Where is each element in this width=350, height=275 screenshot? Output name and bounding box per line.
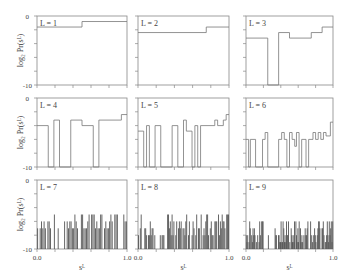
x-tick-0: 0.0 bbox=[33, 254, 42, 262]
figure: L = 10-10log₂ Pr(sᴸ)L = 2L = 3L = 40-10l… bbox=[0, 0, 350, 275]
x-tick-0: 0.0 bbox=[242, 254, 251, 262]
spike-series bbox=[246, 221, 332, 249]
panel-L1: L = 10-10log₂ Pr(sᴸ) bbox=[16, 13, 127, 90]
y-tick-minus10: -10 bbox=[23, 82, 33, 90]
panel-L6: L = 6 bbox=[243, 98, 333, 170]
panel-title: L = 4 bbox=[40, 101, 57, 110]
panel-L2: L = 2 bbox=[135, 16, 229, 88]
panel-title: L = 3 bbox=[249, 19, 266, 28]
y-tick-0: 0 bbox=[26, 95, 30, 103]
x-tick-1: 1.0 bbox=[225, 254, 234, 262]
panel-title: L = 7 bbox=[40, 183, 57, 192]
y-tick-minus10: -10 bbox=[23, 164, 33, 172]
panel-title: L = 6 bbox=[249, 101, 266, 110]
panel-L9: L = 90.01.0sᴸ bbox=[242, 180, 338, 272]
y-axis-label: log₂ Pr(sᴸ) bbox=[16, 115, 25, 149]
y-tick-0: 0 bbox=[26, 177, 30, 185]
step-series bbox=[246, 122, 333, 167]
x-tick-1: 1.0 bbox=[123, 254, 132, 262]
panel-L5: L = 5 bbox=[135, 98, 229, 170]
x-tick-0: 0.0 bbox=[134, 254, 143, 262]
panel-title: L = 5 bbox=[141, 101, 158, 110]
x-axis-label: sᴸ bbox=[180, 263, 186, 272]
x-axis-label: sᴸ bbox=[79, 263, 85, 272]
panel-title: L = 9 bbox=[249, 183, 266, 192]
x-axis-label: sᴸ bbox=[286, 263, 292, 272]
x-tick-1: 1.0 bbox=[329, 254, 338, 262]
panel-L3: L = 3 bbox=[243, 16, 333, 88]
panel-L4: L = 40-10log₂ Pr(sᴸ) bbox=[16, 95, 127, 172]
y-tick-0: 0 bbox=[26, 13, 30, 21]
step-series bbox=[138, 115, 229, 167]
step-series bbox=[246, 27, 333, 85]
panel-title: L = 2 bbox=[141, 19, 158, 28]
y-axis-label: log₂ Pr(sᴸ) bbox=[16, 33, 25, 67]
step-series bbox=[37, 115, 127, 167]
panel-title: L = 8 bbox=[141, 183, 158, 192]
panel-L7: L = 70-10log₂ Pr(sᴸ)0.01.0sᴸ bbox=[16, 177, 132, 272]
y-tick-minus10: -10 bbox=[23, 246, 33, 254]
panel-L8: L = 80.01.0sᴸ bbox=[134, 180, 234, 272]
spike-series bbox=[38, 215, 127, 250]
spike-series bbox=[139, 215, 229, 250]
y-axis-label: log₂ Pr(sᴸ) bbox=[16, 197, 25, 231]
